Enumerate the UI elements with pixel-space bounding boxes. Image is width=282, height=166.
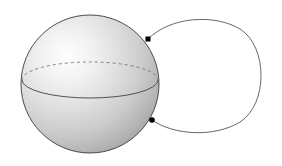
- loop-curve: [148, 19, 261, 132]
- sphere-loop-diagram: [0, 0, 282, 166]
- upper-attachment-marker: [146, 37, 151, 42]
- figure-canvas: [0, 0, 282, 166]
- sphere-body: [21, 15, 159, 153]
- lower-attachment-marker: [149, 117, 155, 123]
